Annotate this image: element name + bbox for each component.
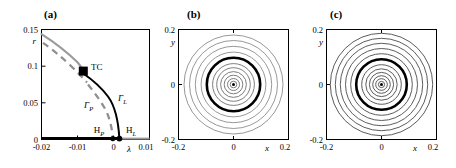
panel-c-ytick-1: 0 [319,80,323,90]
panel-b-ytick-0: -0.2 [162,135,175,145]
panel-b-ytick-2: 0.2 [164,25,175,35]
panel-a-xtick-2: 0 [111,142,115,152]
annotation-gamma-l-sub: L [122,98,127,105]
panel-b: (b) [155,0,305,168]
panel-b-xlabel: x [264,143,269,153]
marker-hp-dot [110,136,115,141]
annotation-hp-sub: P [99,130,104,137]
panel-b-xtick-2: 0.2 [280,142,291,152]
panel-c-xlabel: x [412,143,417,153]
marker-hl-dot [117,136,123,142]
panel-c-ylabel: y [318,37,323,47]
panel-a-xtick-1: -0.01 [69,142,87,152]
panel-c-xtick-1: 0 [379,142,383,152]
panel-c-ytick-0: -0.2 [310,135,323,145]
panel-c-xtick-2: 0.2 [428,142,439,152]
annotation-gamma-p-sub: P [88,105,93,112]
panel-a-plot: -0.02 -0.01 0 0.01 0 0.05 0.1 0.15 r λ T… [0,0,155,168]
panel-b-ytick-1: 0 [171,80,175,90]
marker-tc-square [79,67,88,76]
panel-c-center-dot [380,83,383,86]
panel-c: (c) [305,0,456,168]
annotation-tc: TC [91,62,103,72]
panel-a-ytick-2: 0.1 [27,61,38,71]
annotation-hl-sub: L [131,130,136,137]
panel-c-ytick-2: 0.2 [312,25,323,35]
panel-a-xlabel: λ [126,144,131,154]
panel-a-xtick-3: 0.01 [139,142,154,152]
panel-b-center-dot [232,83,235,86]
panel-c-plot: -0.2 0 0.2 -0.2 0 0.2 y x [305,0,456,168]
panel-b-xtick-1: 0 [231,142,235,152]
panel-b-ylabel: y [170,37,175,47]
panel-a: (a) [0,0,155,168]
panel-a-ylabel: r [32,36,36,46]
panel-a-ytick-0: 0 [34,135,38,145]
panel-a-ytick-3: 0.15 [23,25,38,35]
figure-root: (a) [0,0,456,168]
panel-a-ytick-1: 0.05 [23,98,38,108]
panel-b-plot: -0.2 0 0.2 -0.2 0 0.2 y x [155,0,305,168]
